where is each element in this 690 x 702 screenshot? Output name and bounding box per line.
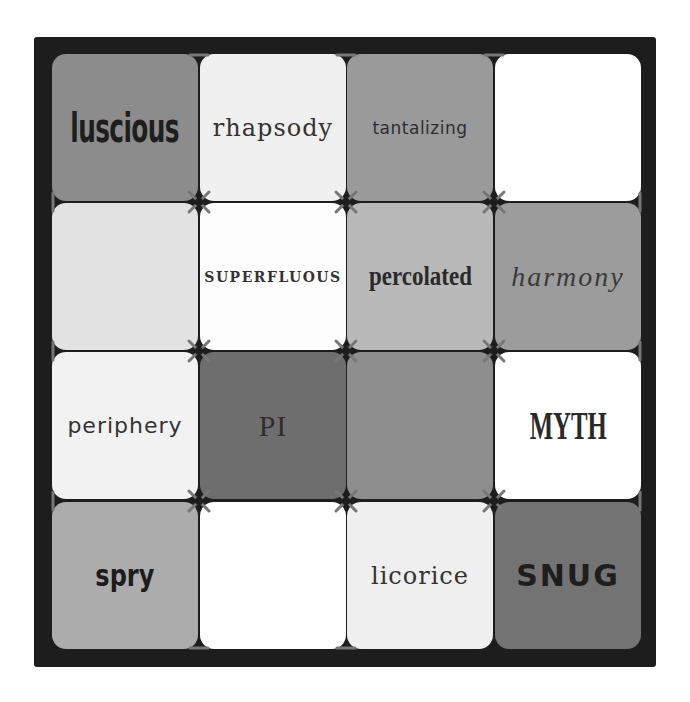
tile-word: tantalizing bbox=[372, 118, 467, 138]
tile-word: luscious bbox=[71, 105, 180, 151]
tile-superfluous: SUPERFLUOUS bbox=[200, 203, 346, 350]
tile-word: SUPERFLUOUS bbox=[204, 269, 341, 285]
tile-word: licorice bbox=[371, 562, 469, 590]
word-quilt-board: luscious rhapsody tantalizing SUPERFLUOU… bbox=[34, 37, 656, 667]
tile-percolated: percolated bbox=[347, 203, 493, 350]
tile-licorice: licorice bbox=[347, 502, 493, 649]
tile-periphery: periphery bbox=[52, 352, 198, 499]
tile-word: periphery bbox=[67, 413, 182, 438]
tile-rhapsody: rhapsody bbox=[200, 54, 346, 201]
tile-spry: spry bbox=[52, 502, 198, 649]
tile-blank bbox=[495, 54, 641, 201]
tile-pi: PI bbox=[200, 352, 346, 499]
tile-word: rhapsody bbox=[213, 114, 333, 142]
tile-tantalizing: tantalizing bbox=[347, 54, 493, 201]
tile-myth: MYTH bbox=[495, 352, 641, 499]
tile-blank bbox=[200, 502, 346, 649]
tile-word: percolated bbox=[369, 261, 472, 292]
tile-snug: SNUG bbox=[495, 502, 641, 649]
tile-word: PI bbox=[259, 409, 288, 443]
tile-word: MYTH bbox=[529, 402, 606, 449]
tile-word: spry bbox=[96, 558, 155, 593]
tile-blank bbox=[347, 352, 493, 499]
tile-harmony: harmony bbox=[495, 203, 641, 350]
tile-blank bbox=[52, 203, 198, 350]
tile-luscious: luscious bbox=[52, 54, 198, 201]
tile-word: harmony bbox=[511, 261, 625, 293]
tile-word: SNUG bbox=[516, 558, 620, 593]
